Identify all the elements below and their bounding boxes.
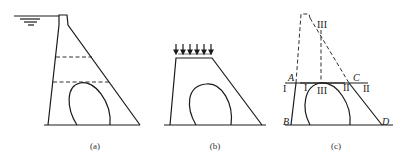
panel-c: A B C D I I II II III III (c) [283,14,393,151]
label-C: C [353,72,360,83]
stress-ellipse [69,83,110,125]
water-level-icon [14,16,59,25]
panel-b: (b) [164,44,266,151]
label-A: A [287,72,295,83]
label-I-left: I [283,83,286,94]
stress-ellipse [189,84,231,125]
caption-a: (a) [90,141,100,151]
label-I-inner: I [304,82,307,93]
caption-c: (c) [331,141,341,151]
truncated-dam-profile [170,58,262,125]
dashed-original-crest [296,14,310,83]
label-D: D [381,116,390,127]
dashed-right-face [310,18,349,83]
label-III-bottom: III [317,85,327,96]
label-B: B [283,116,289,127]
caption-b: (b) [210,141,221,151]
label-II-right: II [363,83,370,94]
panel-a: (a) [14,15,140,151]
dam-profile [48,15,140,125]
label-III-top: III [317,19,327,30]
label-II-inner: II [343,82,350,93]
load-arrows-icon [174,44,213,54]
dam-stress-diagram: (a) (b) [0,0,402,165]
face-AB [291,83,296,125]
